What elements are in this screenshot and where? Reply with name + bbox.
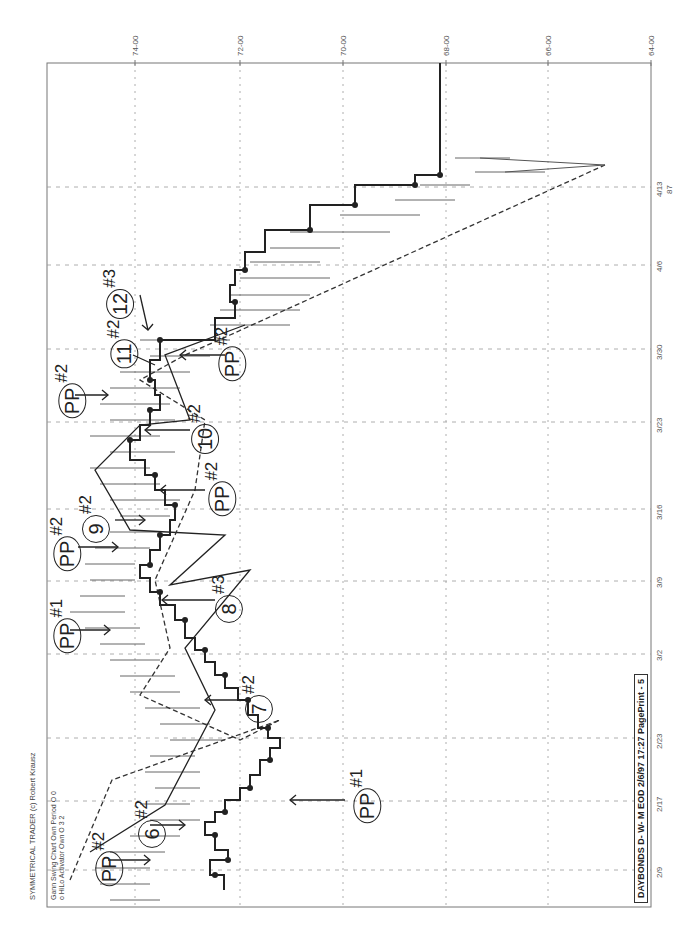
annotation-label: PP (58, 384, 86, 419)
price-bars (70, 158, 545, 900)
annotation-label: PP (95, 852, 123, 887)
annotation-label: 11 (110, 340, 138, 369)
annotation-label: 7 (245, 695, 273, 723)
price-label-74: 74-00 (131, 36, 140, 56)
annotation-label: PP (53, 537, 81, 572)
annotation-8: 8#3 (215, 575, 243, 623)
annotation-label: PP (53, 619, 81, 654)
date-label-316: 3/16 (655, 504, 664, 520)
info-box: DAYBONDS D- W- M EOD 2/6/97 17:27 PagePr… (634, 674, 648, 903)
gann-swing-line-dashed (70, 165, 605, 880)
annotation-sup: #2 (212, 327, 232, 346)
date-label-223: 2/23 (655, 733, 664, 749)
annotation-pp-2-a: PP#2 (95, 832, 123, 887)
annotation-sup: #3 (100, 269, 120, 288)
annotation-sup: #2 (239, 675, 259, 694)
date-label-39: 3/9 (655, 577, 664, 588)
annotation-sup: #2 (47, 517, 67, 536)
year-label: 87 (665, 185, 674, 194)
annotation-pp-1-b: PP#1 (53, 599, 81, 654)
annotation-label: PP (353, 789, 381, 824)
chart-title: SYMMETRICAL TRADER (c) Robert Krausz (28, 752, 37, 900)
date-label-413: 4/13 (655, 181, 664, 197)
price-label-70: 70-00 (339, 36, 348, 56)
annotation-label: PP (208, 482, 236, 517)
date-label-217: 2/17 (655, 796, 664, 812)
annotation-sup: #1 (347, 769, 367, 788)
date-label-330: 3/30 (655, 344, 664, 360)
date-label-46: 4/6 (655, 261, 664, 272)
price-label-64: 64-00 (647, 36, 656, 56)
annotation-label: 8 (215, 595, 243, 623)
gann-swing-tail (480, 158, 605, 172)
annotation-12: 12#3 (106, 269, 134, 319)
annotation-label: 6 (138, 820, 166, 848)
chart-canvas (0, 0, 700, 928)
annotation-sup: #2 (132, 800, 152, 819)
annotation-pp-1-a: PP#1 (353, 769, 381, 824)
annotation-sup: #2 (202, 462, 222, 481)
annotation-6: 6#2 (138, 800, 166, 848)
annotation-pp-2-d: PP#2 (58, 364, 86, 419)
annotation-7: 7#2 (245, 675, 273, 723)
annotation-sup: #2 (104, 320, 124, 339)
annotation-9: 9#2 (82, 495, 110, 543)
annotation-sup: #2 (52, 364, 72, 383)
price-gridlines (135, 63, 548, 907)
annotation-sup: #2 (76, 495, 96, 514)
annotation-pp-2-c: PP#2 (208, 462, 236, 517)
annotation-sup: #1 (47, 599, 67, 618)
annotation-label: PP (218, 347, 246, 382)
legend-hilo: o HiLo Activator Own O 3 2 (58, 816, 65, 900)
price-label-72: 72-00 (236, 36, 245, 56)
price-label-66: 66-00 (544, 36, 553, 56)
legend-gann: Gann Swing Chart Own Period O 0 (50, 791, 57, 900)
date-label-32: 3/2 (655, 650, 664, 661)
price-label-68: 68-00 (442, 36, 451, 56)
annotation-sup: #3 (209, 575, 229, 594)
annotation-sup: #2 (89, 832, 109, 851)
annotation-label: 9 (82, 515, 110, 543)
annotation-pp-2-b: PP#2 (53, 517, 81, 572)
annotation-label: 12 (106, 289, 134, 319)
date-label-323: 3/23 (655, 417, 664, 433)
annotation-pp-2-e: PP#2 (218, 327, 246, 382)
annotation-10: 10#2 (191, 404, 219, 454)
date-gridlines (47, 187, 651, 870)
date-label-29: 2/9 (655, 867, 664, 878)
annotation-sup: #2 (185, 404, 205, 423)
annotation-label: 10 (191, 424, 219, 454)
annotation-11: 11#2 (110, 320, 138, 369)
